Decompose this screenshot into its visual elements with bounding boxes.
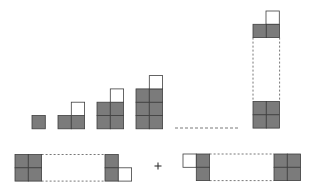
- figure-2: [58, 102, 85, 129]
- plus-operator: [155, 163, 162, 170]
- figure-n: [253, 11, 280, 128]
- figure-n-rotated-left: [15, 155, 132, 182]
- pattern-diagram: [0, 0, 311, 193]
- figure-n-rotated-right: [183, 154, 301, 181]
- figure-3: [97, 89, 124, 129]
- figure-4: [136, 76, 163, 129]
- figure-1: [32, 116, 45, 129]
